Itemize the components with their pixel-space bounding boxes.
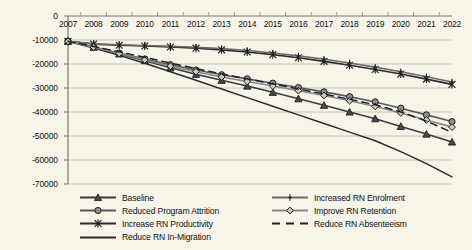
x-axis-label: 2018 bbox=[338, 19, 362, 29]
legend-item-label: Increased RN Enrolment bbox=[314, 193, 405, 203]
y-axis-label: -10000 bbox=[10, 35, 58, 45]
legend-key-glyph bbox=[270, 192, 310, 203]
marker-plus bbox=[288, 194, 292, 200]
legend-item[interactable]: Improve RN Retention bbox=[270, 204, 468, 217]
legend-key-glyph bbox=[78, 205, 118, 216]
legend-key-glyph bbox=[78, 192, 118, 203]
y-axis-label: -40000 bbox=[10, 107, 58, 117]
x-axis-label: 2011 bbox=[158, 19, 182, 29]
y-axis-label: -70000 bbox=[10, 179, 58, 189]
legend-key-glyph bbox=[270, 218, 310, 229]
legend-marker bbox=[287, 207, 294, 214]
legend-key-baseline bbox=[78, 192, 118, 203]
legend-item[interactable]: Baseline bbox=[78, 191, 270, 204]
legend-marker bbox=[95, 208, 101, 214]
legend-key-improve-rn-retention bbox=[270, 205, 310, 216]
legend-key-reduced-program-attrition bbox=[78, 205, 118, 216]
legend-item[interactable]: Increase RN Productivity bbox=[78, 217, 270, 230]
x-axis-label: 2010 bbox=[133, 19, 157, 29]
legend-key-increase-rn-productivity bbox=[78, 218, 118, 229]
x-axis-label: 2008 bbox=[82, 19, 106, 29]
x-axis-label: 2016 bbox=[286, 19, 310, 29]
legend-item-label: Increase RN Productivity bbox=[122, 219, 213, 229]
legend-key-glyph bbox=[78, 232, 118, 243]
y-axis-label: -50000 bbox=[10, 131, 58, 141]
legend-item-label: Reduced Program Attrition bbox=[122, 206, 219, 216]
line-chart: BaselineIncreased RN EnrolmentReduced Pr… bbox=[0, 0, 472, 250]
legend-item[interactable]: Reduce RN Absenteeism bbox=[270, 217, 468, 230]
x-axis-label: 2014 bbox=[235, 19, 259, 29]
legend-key-reduce-rn-absenteeism bbox=[270, 218, 310, 229]
x-axis-label: 2013 bbox=[210, 19, 234, 29]
legend-key-glyph bbox=[78, 218, 118, 229]
x-axis-label: 2021 bbox=[414, 19, 438, 29]
legend-marker bbox=[288, 194, 292, 200]
x-axis-label: 2017 bbox=[312, 19, 336, 29]
x-axis-label: 2015 bbox=[261, 19, 285, 29]
marker-diamond bbox=[287, 207, 294, 214]
legend-key-glyph bbox=[270, 205, 310, 216]
legend-item-label: Baseline bbox=[122, 193, 154, 203]
y-axis-label: -60000 bbox=[10, 155, 58, 165]
x-axis-label: 2007 bbox=[56, 19, 80, 29]
y-axis-label: -30000 bbox=[10, 83, 58, 93]
legend-item[interactable]: Increased RN Enrolment bbox=[270, 191, 468, 204]
x-axis-label: 2012 bbox=[184, 19, 208, 29]
legend-item-label: Reduce RN In-Migration bbox=[122, 232, 211, 242]
legend-item[interactable]: Reduce RN In-Migration bbox=[78, 231, 270, 244]
y-axis-label: 0 bbox=[10, 11, 58, 21]
x-axis-label: 2009 bbox=[107, 19, 131, 29]
y-axis-label: -20000 bbox=[10, 59, 58, 69]
legend-item[interactable]: Reduced Program Attrition bbox=[78, 204, 270, 217]
legend-key-increased-rn-enrolment bbox=[270, 192, 310, 203]
legend-item-label: Reduce RN Absenteeism bbox=[314, 219, 407, 229]
x-axis-label: 2020 bbox=[389, 19, 413, 29]
marker-circle bbox=[95, 208, 101, 214]
x-axis-label: 2019 bbox=[363, 19, 387, 29]
legend-key-reduce-rn-in-migration bbox=[78, 232, 118, 243]
chart-legend: BaselineIncreased RN EnrolmentReduced Pr… bbox=[78, 191, 468, 249]
legend-item-label: Improve RN Retention bbox=[314, 206, 396, 216]
x-axis-label: 2022 bbox=[440, 19, 464, 29]
